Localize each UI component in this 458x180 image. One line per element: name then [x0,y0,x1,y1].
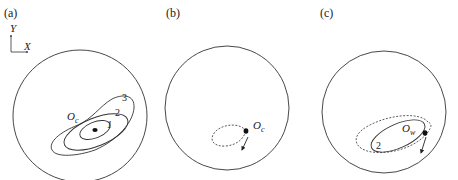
trajectory-loop [212,125,246,146]
direction-arrow-icon [242,137,248,150]
contour-3-label: 3 [122,92,127,103]
center-label-oc: Oc [67,110,79,125]
contour-2-label: 2 [376,140,381,151]
cylinder-boundary-circle [165,46,289,170]
panel-b-label: (b) [166,6,180,20]
y-axis-label: Y [10,22,18,34]
center-dot [92,128,97,132]
contour-2 [367,113,430,159]
axis-marker: Y X [10,22,32,53]
figure: (a) Y X Oc 1 2 3 (b) [0,0,458,180]
panel-a-label: (a) [4,6,17,20]
center-label-ow: Ow [402,122,416,137]
cylinder-boundary-circle [13,50,147,180]
trajectory-loop [356,116,431,153]
panel-b: (b) Oc [165,6,289,170]
center-label-oc: Oc [253,119,265,134]
contour-1-label: 1 [107,119,112,130]
contour-3 [51,96,134,155]
cylinder-boundary-circle [322,51,446,173]
contour-2-label: 2 [115,107,120,118]
panel-a: (a) Y X Oc 1 2 3 [4,6,147,180]
y-axis-tip [10,35,12,37]
center-dot [244,128,249,134]
panel-c: (c) Ow 2 [320,6,446,173]
panel-c-label: (c) [320,6,333,20]
center-dot [423,130,428,136]
x-axis-label: X [23,40,32,52]
direction-arrow-icon [421,137,426,153]
